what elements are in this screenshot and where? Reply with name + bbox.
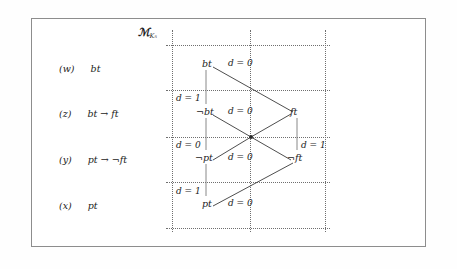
row-caption-z: (z)bt → ft bbox=[59, 108, 119, 119]
grid-vline-right bbox=[325, 30, 326, 232]
row-tag-y: (y) bbox=[59, 154, 72, 165]
atom-not-bt: ¬bt bbox=[196, 106, 214, 117]
degree-y-right: d = 1 bbox=[301, 140, 326, 150]
grid-hline-bottom bbox=[166, 228, 330, 229]
atom-pt: pt bbox=[202, 198, 212, 209]
atom-not-pt: ¬pt bbox=[195, 152, 213, 163]
row-formula-y: pt → ¬ft bbox=[88, 154, 127, 165]
degree-y-left: d = 0 bbox=[176, 140, 201, 150]
model-subscript: K₅ bbox=[150, 32, 157, 40]
row-formula-x: pt bbox=[88, 200, 98, 211]
model-label: ℳK₅ bbox=[138, 26, 157, 39]
atom-bt: bt bbox=[202, 58, 212, 69]
row-tag-w: (w) bbox=[59, 63, 75, 74]
grid-vline-left bbox=[172, 30, 173, 232]
script-m-symbol: ℳ bbox=[138, 26, 150, 39]
degree-w-right: d = 0 bbox=[228, 58, 253, 68]
degree-x-mid: d = 0 bbox=[228, 198, 253, 208]
degree-y-mid: d = 0 bbox=[228, 152, 253, 162]
row-tag-z: (z) bbox=[59, 108, 71, 119]
degree-z-left: d = 1 bbox=[176, 93, 201, 103]
grid-hline-top bbox=[166, 45, 330, 46]
grid-hline-3 bbox=[166, 137, 330, 138]
degree-z-mid: d = 0 bbox=[228, 106, 253, 116]
atom-not-ft: ¬ft bbox=[287, 152, 302, 163]
row-formula-z: bt → ft bbox=[87, 108, 118, 119]
degree-x-left: d = 1 bbox=[176, 186, 201, 196]
row-tag-x: (x) bbox=[59, 200, 72, 211]
row-formula-w: bt bbox=[91, 63, 101, 74]
grid-hline-2 bbox=[166, 90, 330, 91]
row-caption-y: (y)pt → ¬ft bbox=[59, 154, 127, 165]
figure-frame bbox=[31, 18, 426, 247]
grid-hline-4 bbox=[166, 182, 330, 183]
row-caption-x: (x)pt bbox=[59, 200, 98, 211]
row-caption-w: (w)bt bbox=[59, 63, 100, 74]
figure-canvas: ℳK₅ (w)bt (z)bt → ft (y)pt → ¬ft (x)pt b bbox=[0, 0, 457, 269]
atom-ft: ft bbox=[290, 106, 297, 117]
